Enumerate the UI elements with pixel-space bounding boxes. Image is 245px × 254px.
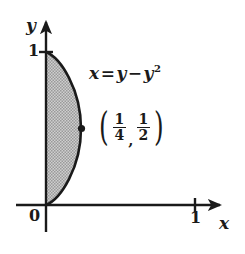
fraction-one-half: 1 2 [137, 112, 151, 143]
equation-equals-sign: = [100, 63, 117, 83]
y-axis-label: y [26, 17, 36, 34]
fraction-denominator: 4 [113, 127, 127, 143]
equation-rhs-second-term: y [144, 63, 154, 83]
origin-label: 0 [29, 208, 40, 224]
open-paren: ( [99, 111, 109, 142]
fraction-numerator: 1 [113, 112, 127, 127]
point-coordinate-label: ( 1 4 , 1 2 ) [96, 104, 167, 150]
math-figure: y x 1 0 1 x=y−y2 ( 1 4 , 1 2 ) [0, 0, 245, 254]
point-marker [78, 125, 85, 132]
coordinate-separator: , [127, 133, 135, 150]
fraction-denominator: 2 [137, 127, 151, 143]
x-tick-label-1: 1 [190, 210, 201, 226]
equation-rhs-first-term: y [116, 63, 126, 83]
equation-exponent: 2 [154, 63, 161, 74]
close-paren: ) [154, 111, 164, 142]
y-tick-label-1: 1 [28, 43, 39, 59]
equation-lhs: x [89, 63, 100, 83]
shaded-region [46, 52, 81, 205]
fraction-one-quarter: 1 4 [113, 112, 127, 143]
fraction-numerator: 1 [137, 112, 151, 127]
curve-equation-label: x=y−y2 [89, 65, 161, 82]
x-axis-label: x [219, 215, 229, 232]
equation-minus-sign: − [127, 63, 144, 83]
